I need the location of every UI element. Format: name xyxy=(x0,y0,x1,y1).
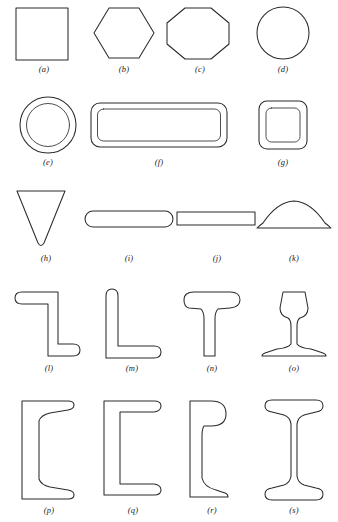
tapered-flange-channel-section xyxy=(6,396,92,504)
solid-circle-section xyxy=(243,4,323,62)
angle-l-section xyxy=(90,286,174,362)
figure-label-k: (k) xyxy=(253,253,335,263)
figure-label-a: (a) xyxy=(6,64,82,74)
figure-label-j: (j) xyxy=(172,253,262,263)
figure-item-q: (q) xyxy=(88,396,178,518)
figure-label-o: (o) xyxy=(253,363,335,373)
figure-label-d: (d) xyxy=(243,64,323,74)
figure-item-l: (l) xyxy=(6,286,92,376)
flat-rectangular-bar-section xyxy=(172,186,262,252)
figure-item-i: (i) xyxy=(82,186,176,266)
figure-item-o: (o) xyxy=(253,286,335,376)
cross-section-shapes-figure: (a) (b) (c) (d) xyxy=(0,0,338,522)
figure-item-p: (p) xyxy=(6,396,92,518)
figure-item-e: (e) xyxy=(6,94,90,170)
hollow-circular-tube-section xyxy=(6,94,90,156)
figure-label-p: (p) xyxy=(6,505,92,515)
figure-label-h: (h) xyxy=(6,253,86,263)
figure-label-s: (s) xyxy=(253,505,335,515)
figure-item-b: (b) xyxy=(84,4,164,80)
figure-item-f: (f) xyxy=(86,94,232,170)
figure-item-m: (m) xyxy=(90,286,174,376)
figure-label-r: (r) xyxy=(172,505,252,515)
figure-item-d: (d) xyxy=(243,4,323,80)
parallel-flange-channel-section xyxy=(88,396,178,504)
rounded-flat-bar-section xyxy=(82,186,176,252)
figure-label-i: (i) xyxy=(82,253,176,263)
z-section xyxy=(6,286,92,362)
figure-label-m: (m) xyxy=(90,363,174,373)
i-beam-wide-flange-section xyxy=(253,396,335,504)
solid-hexagon-section xyxy=(84,4,164,62)
railroad-rail-section xyxy=(253,286,335,362)
solid-square-section xyxy=(6,4,82,62)
inverted-triangle-section xyxy=(6,186,86,252)
figure-item-a: (a) xyxy=(6,4,82,80)
figure-label-b: (b) xyxy=(84,64,164,74)
figure-item-j: (j) xyxy=(172,186,262,266)
solid-octagon-section xyxy=(162,4,238,62)
hollow-rectangular-tube-section xyxy=(86,94,232,156)
figure-item-h: (h) xyxy=(6,186,86,266)
figure-label-q: (q) xyxy=(88,505,178,515)
figure-label-g: (g) xyxy=(243,157,323,167)
figure-label-n: (n) xyxy=(172,363,252,373)
figure-label-f: (f) xyxy=(86,157,232,167)
figure-item-s: (s) xyxy=(253,396,335,518)
bulb-flat-section xyxy=(172,396,252,504)
tee-section xyxy=(172,286,252,362)
figure-item-g: (g) xyxy=(243,94,323,170)
figure-item-c: (c) xyxy=(162,4,238,80)
figure-label-e: (e) xyxy=(6,157,90,167)
figure-item-n: (n) xyxy=(172,286,252,376)
figure-label-c: (c) xyxy=(162,64,238,74)
figure-label-l: (l) xyxy=(6,363,92,373)
figure-item-k: (k) xyxy=(253,186,335,266)
hollow-square-tube-section xyxy=(243,94,323,156)
figure-item-r: (r) xyxy=(172,396,252,518)
half-round-dome-section xyxy=(253,186,335,252)
